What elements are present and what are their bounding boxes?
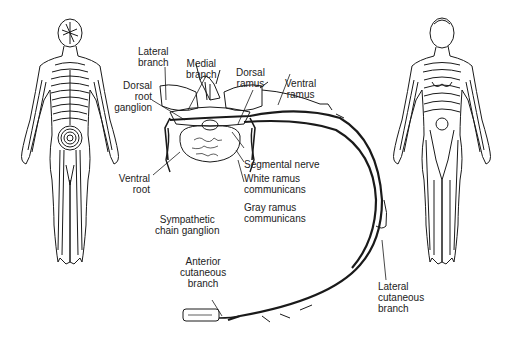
label-sympathetic-chain-ganglion: Sympathetic chain ganglion [155, 214, 220, 236]
anterior-body-figure [394, 18, 491, 264]
label-dorsal-root-ganglion: Dorsal root ganglion [108, 80, 152, 113]
label-ventral-ramus: Ventral ramus [285, 78, 316, 100]
diagram-canvas [0, 0, 511, 342]
label-segmental-nerve: Segmental nerve [244, 159, 320, 170]
label-lateral-cutaneous-branch: Lateral cutaneous branch [378, 281, 424, 314]
label-ventral-root: Ventral root [106, 173, 150, 195]
posterior-body-figure [22, 19, 119, 264]
label-lateral-branch: Lateral branch [138, 46, 169, 68]
label-white-ramus-communicans: White ramus communicans [244, 173, 306, 195]
label-medial-branch: Medial branch [186, 58, 217, 80]
label-dorsal-ramus: Dorsal ramus [236, 67, 265, 89]
label-anterior-cutaneous-branch: Anterior cutaneous branch [180, 256, 226, 289]
label-gray-ramus-communicans: Gray ramus communicans [244, 202, 306, 224]
